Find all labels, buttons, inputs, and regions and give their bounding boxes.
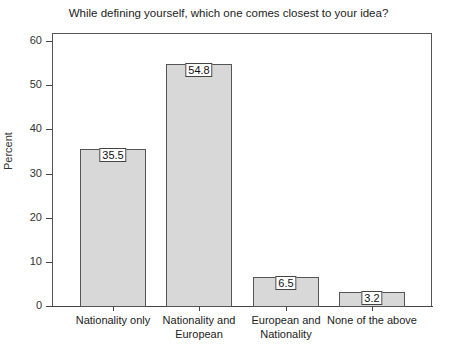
y-tick-label: 60 — [14, 34, 42, 46]
y-tick-label: 30 — [14, 167, 42, 179]
x-tick — [199, 306, 200, 311]
y-tick — [46, 41, 52, 42]
y-tick-label: 40 — [14, 122, 42, 134]
bar — [166, 64, 232, 307]
x-tick-label: None of the above — [317, 313, 427, 327]
y-tick-label: 0 — [14, 299, 42, 311]
y-axis-title: Percent — [2, 132, 14, 170]
y-tick — [46, 218, 52, 219]
y-tick — [46, 262, 52, 263]
y-tick-label: 50 — [14, 78, 42, 90]
y-tick — [46, 174, 52, 175]
bar-value-label: 6.5 — [275, 276, 296, 290]
chart-title: While defining yourself, which one comes… — [0, 7, 457, 19]
y-tick — [46, 85, 52, 86]
y-tick — [46, 306, 52, 307]
y-tick-label: 10 — [14, 255, 42, 267]
y-tick-label: 20 — [14, 211, 42, 223]
x-tick — [113, 306, 114, 311]
bar-value-label: 35.5 — [99, 148, 126, 162]
x-tick — [286, 306, 287, 311]
x-tick — [372, 306, 373, 311]
y-tick — [46, 129, 52, 130]
bar — [80, 149, 146, 307]
bar-value-label: 54.8 — [185, 63, 212, 77]
bar-value-label: 3.2 — [361, 291, 382, 305]
